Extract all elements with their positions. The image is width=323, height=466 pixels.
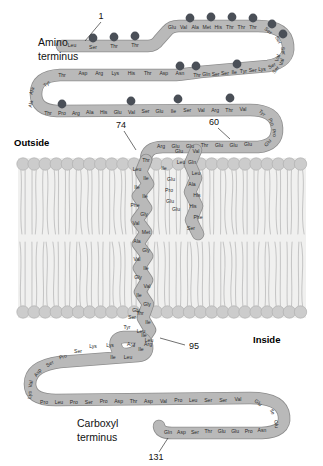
lipid-tail-icon — [69, 170, 70, 234]
lipid-head-icon — [172, 306, 184, 318]
lipid-tail-icon — [98, 242, 99, 306]
residue-label: Gln — [188, 159, 196, 165]
lipid-head-icon — [294, 306, 306, 318]
lipid-tail-icon — [76, 242, 77, 306]
residue-label: His — [193, 192, 201, 198]
residue-label: Ala — [133, 238, 141, 244]
residue-label: Leu — [55, 399, 64, 405]
residue-label: Pro — [70, 399, 78, 405]
phosphate-group-icon — [127, 97, 136, 106]
residue-label: Asp — [159, 70, 168, 76]
residue-label: Ser — [142, 108, 150, 114]
residue-label: His — [215, 24, 223, 30]
lipid-head-icon — [250, 306, 262, 318]
residue-label: Glu — [230, 142, 238, 148]
lipid-head-icon — [39, 158, 51, 170]
residue-label: His — [189, 203, 197, 209]
residue-label: Glu — [231, 428, 239, 434]
residue-label: Val — [240, 106, 247, 112]
lipid-head-icon — [106, 158, 118, 170]
lipid-head-icon — [72, 306, 84, 318]
residue-label: Ile — [161, 165, 167, 171]
lipid-head-icon — [161, 306, 173, 318]
lipid-tail-icon — [209, 170, 210, 234]
diagram-canvas: LeuSerThrThrGluValAlaMetHisThrThrThrSerS… — [0, 0, 323, 466]
phosphate-group-icon — [131, 32, 140, 41]
residue-label: Thr — [225, 107, 233, 113]
phosphate-group-icon — [207, 13, 216, 22]
residue-label: Pro — [174, 397, 182, 403]
residue-label: Arg — [72, 110, 80, 116]
residue-label: Pro — [58, 110, 66, 116]
residue-label: Thr — [110, 43, 118, 49]
residue-label: Glu — [218, 428, 226, 434]
lipid-head-icon — [239, 306, 251, 318]
residue-label: Val — [198, 107, 205, 113]
amino-terminus-label-line2: terminus — [38, 50, 78, 62]
lipid-head-icon — [95, 306, 107, 318]
residue-label: Ala — [191, 24, 199, 30]
membrane-background — [18, 158, 306, 318]
residue-label: Pro — [165, 187, 173, 193]
residue-label: Pro — [40, 399, 48, 405]
residue-label: Ile — [231, 69, 237, 75]
residue-label: Pro — [100, 398, 108, 404]
lipid-head-icon — [294, 158, 306, 170]
leader-line-95 — [160, 338, 185, 345]
lipid-head-icon — [261, 306, 273, 318]
residue-label: Ser — [85, 399, 93, 405]
lipid-head-icon — [228, 306, 240, 318]
lipid-head-icon — [183, 306, 195, 318]
lipid-head-icon — [50, 306, 62, 318]
carboxyl-terminus-label-line1: Carboxyl — [77, 417, 118, 429]
residue-label: Ala — [27, 100, 34, 108]
lipid-head-icon — [17, 306, 29, 318]
amino-terminus-label-line1: Amino — [38, 36, 68, 48]
residue-label: Lys — [26, 390, 33, 399]
residue-label: Ser — [212, 71, 220, 77]
residue-label: Phe — [130, 202, 139, 208]
phosphate-group-icon — [174, 95, 183, 104]
residue-label: Ile — [141, 332, 147, 338]
phospholipid-bilayer — [17, 158, 307, 318]
leader-line-74 — [124, 131, 136, 150]
residue-label: Val — [27, 380, 34, 388]
lipid-tail-icon — [209, 242, 210, 306]
lipid-head-icon — [83, 158, 95, 170]
lipid-head-icon — [28, 158, 40, 170]
residue-label: Ser — [249, 67, 257, 73]
residue-label: Thr — [131, 42, 139, 48]
residue-label: Gly — [142, 247, 150, 253]
residue-label: Tyr — [240, 68, 247, 74]
lipid-tail-icon — [298, 242, 299, 306]
residue-label: Leu — [192, 170, 201, 176]
lipid-head-icon — [72, 158, 84, 170]
phosphate-group-icon — [228, 13, 237, 22]
residue-label: Glu — [168, 24, 176, 30]
residue-label: Ile — [145, 319, 151, 325]
residue-label: His — [128, 70, 136, 76]
residue-label: Asn — [176, 70, 185, 76]
phosphate-group-icon — [279, 30, 288, 39]
residue-label: Glu — [155, 108, 163, 114]
carboxyl-terminus-label-line2: terminus — [77, 431, 117, 443]
residue-label: Val — [128, 109, 135, 115]
residue-label: Ile — [142, 193, 148, 199]
leader-line-131 — [159, 438, 168, 452]
lipid-head-icon — [206, 306, 218, 318]
residue-label: Glu — [215, 142, 223, 148]
phosphate-group-icon — [226, 94, 235, 103]
residue-label: Lys — [106, 342, 114, 348]
residue-label: Thr — [130, 398, 138, 404]
lipid-head-icon — [50, 158, 62, 170]
phosphate-group-icon — [176, 62, 185, 71]
residue-label: Asp — [114, 398, 123, 404]
residue-label: Ser — [128, 314, 136, 320]
residue-label: Val — [180, 24, 187, 30]
phosphate-group-icon — [268, 20, 277, 29]
residue-label: Ile — [269, 408, 277, 416]
residue-label: Ile — [110, 354, 116, 360]
residue-label: Ser — [221, 70, 229, 76]
residue-label: Ile — [143, 175, 149, 181]
lipid-head-icon — [61, 158, 73, 170]
